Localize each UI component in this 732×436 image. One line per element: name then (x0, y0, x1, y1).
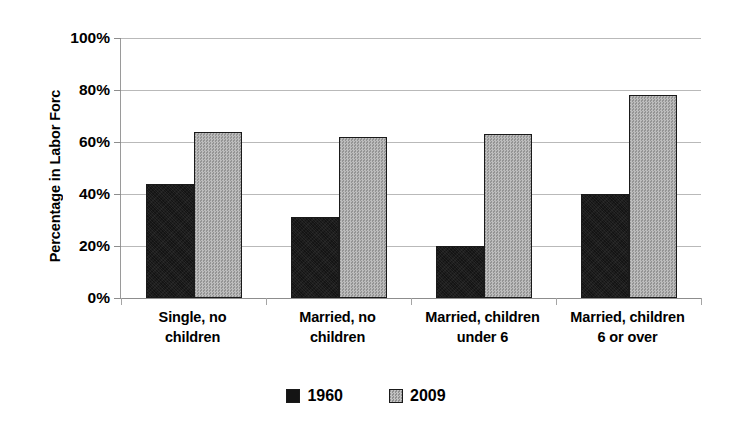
y-tick-label-60: 60% (40, 134, 110, 150)
x-axis-label-3: Married, children6 or over (547, 308, 708, 347)
y-axis-tick-labels: 0%20%40%60%80%100% (40, 0, 110, 436)
x-label-line: Married, children (402, 308, 563, 328)
x-tick-mark-1 (266, 298, 267, 305)
x-label-line: under 6 (402, 328, 563, 348)
x-tick-mark-0 (121, 298, 122, 305)
bar-chart: Percentage in Labor Forc 0%20%40%60%80%1… (0, 0, 732, 436)
bar-1960-3 (581, 194, 629, 298)
bar-1960-0 (146, 184, 194, 298)
gridline-80 (121, 90, 701, 91)
y-tick-label-40: 40% (40, 186, 110, 202)
x-label-line: Single, no (112, 308, 273, 328)
y-tick-label-0: 0% (40, 290, 110, 306)
gridline-100 (121, 38, 701, 39)
y-tick-label-100: 100% (40, 30, 110, 46)
x-label-line: children (112, 328, 273, 348)
chart-legend: 19602009 (0, 388, 732, 404)
y-tick-mark-80 (114, 90, 121, 91)
y-tick-mark-0 (114, 298, 121, 299)
x-label-line: 6 or over (547, 328, 708, 348)
y-tick-label-80: 80% (40, 82, 110, 98)
legend-label-2009: 2009 (410, 388, 446, 404)
x-tick-mark-4 (701, 298, 702, 305)
x-axis-category-labels: Single, nochildrenMarried, nochildrenMar… (120, 308, 700, 368)
bar-2009-1 (339, 137, 387, 298)
y-tick-label-20: 20% (40, 238, 110, 254)
bar-2009-0 (194, 132, 242, 298)
y-tick-mark-60 (114, 142, 121, 143)
legend-item-1960[interactable]: 1960 (286, 388, 343, 404)
legend-item-2009[interactable]: 2009 (389, 388, 446, 404)
legend-swatch-1960 (286, 389, 300, 403)
x-axis-label-2: Married, childrenunder 6 (402, 308, 563, 347)
legend-label-1960: 1960 (307, 388, 343, 404)
x-label-line: children (257, 328, 418, 348)
plot-area (120, 38, 701, 298)
y-tick-mark-40 (114, 194, 121, 195)
y-tick-mark-100 (114, 38, 121, 39)
y-tick-mark-20 (114, 246, 121, 247)
bar-1960-1 (291, 217, 339, 298)
x-tick-mark-2 (411, 298, 412, 305)
legend-swatch-2009 (389, 389, 403, 403)
bar-2009-2 (484, 134, 532, 298)
x-axis-label-1: Married, nochildren (257, 308, 418, 347)
x-label-line: Married, no (257, 308, 418, 328)
bar-1960-2 (436, 246, 484, 298)
x-axis-label-0: Single, nochildren (112, 308, 273, 347)
x-tick-mark-3 (556, 298, 557, 305)
bar-2009-3 (629, 95, 677, 298)
x-label-line: Married, children (547, 308, 708, 328)
